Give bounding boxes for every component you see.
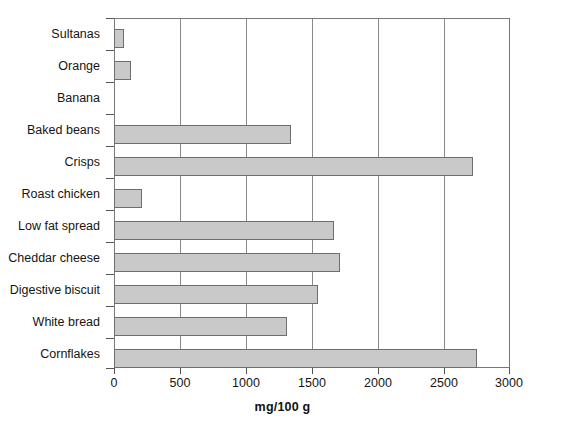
- xtick-label-0: 0: [84, 376, 144, 390]
- xtick-mark-500: [180, 368, 181, 374]
- xtick-mark-2000: [378, 368, 379, 374]
- xtick-label-2500: 2500: [414, 376, 474, 390]
- category-label-orange: Orange: [58, 59, 100, 73]
- bars-layer: [114, 18, 510, 368]
- category-label-roast-chicken: Roast chicken: [21, 187, 100, 201]
- category-label-crisps: Crisps: [65, 155, 100, 169]
- xtick-label-2000: 2000: [348, 376, 408, 390]
- xtick-mark-0: [114, 368, 115, 374]
- bar-roast-chicken: [114, 189, 142, 208]
- bar-cheddar-cheese: [114, 253, 340, 272]
- xtick-label-500: 500: [150, 376, 210, 390]
- category-label-baked-beans: Baked beans: [27, 123, 100, 137]
- category-label-low-fat-spread: Low fat spread: [18, 219, 100, 233]
- bar-baked-beans: [114, 125, 291, 144]
- x-axis-title: mg/100 g: [0, 400, 565, 414]
- bar-digestive-biscuit: [114, 285, 318, 304]
- xtick-label-1000: 1000: [216, 376, 276, 390]
- category-label-cheddar-cheese: Cheddar cheese: [8, 251, 100, 265]
- xtick-mark-2500: [444, 368, 445, 374]
- bar-orange: [114, 61, 131, 80]
- bar-low-fat-spread: [114, 221, 334, 240]
- bar-white-bread: [114, 317, 287, 336]
- bar-cornflakes: [114, 349, 477, 368]
- bar-crisps: [114, 157, 473, 176]
- bar-chart: Sultanas Orange Banana Baked beans Crisp…: [0, 0, 565, 435]
- category-label-banana: Banana: [57, 91, 100, 105]
- category-label-sultanas: Sultanas: [51, 27, 100, 41]
- bar-sultanas: [114, 29, 124, 48]
- category-labels: Sultanas Orange Banana Baked beans Crisp…: [0, 0, 108, 435]
- category-label-white-bread: White bread: [33, 315, 100, 329]
- xtick-mark-1500: [312, 368, 313, 374]
- category-label-digestive-biscuit: Digestive biscuit: [10, 283, 100, 297]
- category-label-cornflakes: Cornflakes: [40, 347, 100, 361]
- xtick-mark-1000: [246, 368, 247, 374]
- xtick-label-1500: 1500: [282, 376, 342, 390]
- xtick-mark-3000: [509, 368, 510, 374]
- xtick-label-3000: 3000: [479, 376, 539, 390]
